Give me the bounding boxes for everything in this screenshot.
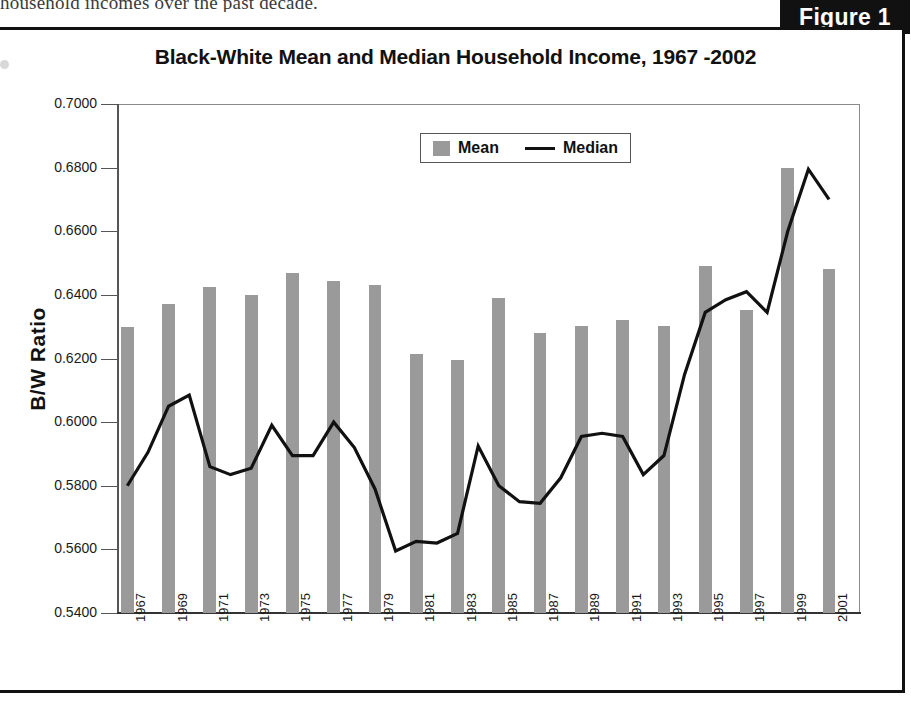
- x-tick-label: 1979: [381, 593, 396, 622]
- y-tick-mark: [101, 613, 117, 614]
- y-tick-mark: [101, 295, 117, 296]
- x-tick-label: 1997: [752, 593, 767, 622]
- y-axis-title-holder: B/W Ratio: [18, 104, 48, 613]
- y-tick-mark: [101, 549, 117, 550]
- median-line: [127, 169, 829, 551]
- y-tick-mark: [101, 486, 117, 487]
- x-tick-label: 1987: [546, 593, 561, 622]
- legend-line-median-icon: [525, 147, 555, 150]
- x-tick-label: 1971: [216, 593, 231, 622]
- x-tick-label: 1977: [340, 593, 355, 622]
- chart-legend: Mean Median: [420, 133, 631, 163]
- y-tick-mark: [101, 231, 117, 232]
- legend-item-median: Median: [525, 139, 618, 157]
- x-tick-label: 1981: [422, 593, 437, 622]
- x-tick-label: 1991: [629, 593, 644, 622]
- chart-plot-area: 0.70000.68000.66000.64000.62000.60000.58…: [0, 0, 911, 715]
- x-tick-label: 1995: [711, 593, 726, 622]
- x-tick-label: 2001: [835, 593, 850, 622]
- legend-label-median: Median: [563, 139, 618, 157]
- legend-item-mean: Mean: [433, 139, 499, 157]
- median-line-layer: [117, 104, 860, 613]
- y-axis-title: B/W Ratio: [26, 269, 50, 449]
- legend-swatch-mean-icon: [433, 141, 450, 156]
- x-tick-label: 1973: [257, 593, 272, 622]
- x-tick-label: 1983: [464, 593, 479, 622]
- y-tick-mark: [101, 359, 117, 360]
- y-tick-mark: [101, 422, 117, 423]
- x-tick-label: 1975: [298, 593, 313, 622]
- x-tick-label: 1985: [505, 593, 520, 622]
- y-tick-mark: [101, 104, 117, 105]
- legend-label-mean: Mean: [458, 139, 499, 157]
- y-tick-mark: [101, 168, 117, 169]
- x-tick-label: 1969: [175, 593, 190, 622]
- x-tick-label: 1989: [587, 593, 602, 622]
- x-tick-label: 1993: [670, 593, 685, 622]
- x-tick-label: 1967: [133, 593, 148, 622]
- x-tick-label: 1999: [794, 593, 809, 622]
